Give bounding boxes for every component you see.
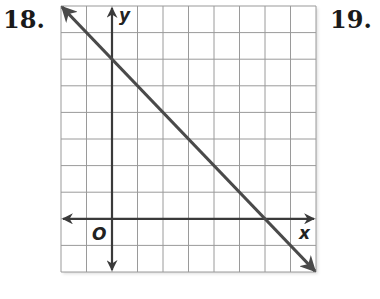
origin-label: O xyxy=(92,224,106,244)
coordinate-grid-chart: y x O xyxy=(0,0,380,299)
x-axis-label: x xyxy=(298,223,311,243)
y-axis-label: y xyxy=(119,5,131,25)
